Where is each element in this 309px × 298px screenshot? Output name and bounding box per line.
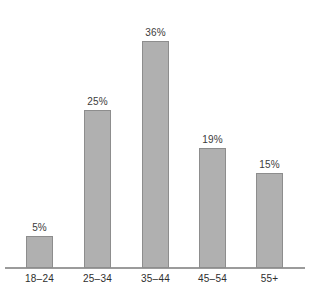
bar-rect[interactable] (142, 41, 169, 268)
bar-group: 15% (256, 173, 283, 268)
x-axis-tick-label: 55+ (261, 273, 279, 285)
bar-rect[interactable] (256, 173, 283, 268)
bar-value-label: 19% (202, 134, 222, 145)
bar-value-label: 5% (32, 222, 47, 233)
bar-rect[interactable] (199, 148, 226, 268)
x-axis-tick-label: 18–24 (25, 273, 54, 285)
x-axis-tick-label: 45–54 (198, 273, 227, 285)
x-axis-tick-label: 35–44 (141, 273, 170, 285)
bar-value-label: 15% (259, 159, 279, 170)
plot-area: 5% 18–24 25% 25–34 36% 35–44 19% 45–54 1… (0, 0, 309, 298)
x-axis-tick-label: 25–34 (83, 273, 112, 285)
bar-value-label: 36% (145, 27, 165, 38)
bar-chart: 5% 18–24 25% 25–34 36% 35–44 19% 45–54 1… (0, 0, 309, 298)
bar-group: 25% (84, 110, 111, 268)
bar-group: 5% (26, 236, 53, 268)
bar-value-label: 25% (87, 96, 107, 107)
bar-group: 36% (142, 41, 169, 268)
bar-rect[interactable] (84, 110, 111, 268)
bar-rect[interactable] (26, 236, 53, 268)
bar-group: 19% (199, 148, 226, 268)
